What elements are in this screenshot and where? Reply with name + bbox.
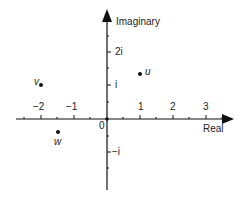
- y-tick-label: −i: [112, 147, 120, 157]
- point-w: [56, 130, 60, 134]
- point-v-label: v: [34, 77, 39, 87]
- point-w-label: w: [54, 137, 61, 147]
- x-axis-label: Real: [203, 124, 224, 134]
- y-axis-label: Imaginary: [116, 17, 160, 27]
- x-tick-label: −2: [33, 102, 44, 112]
- point-v: [39, 83, 43, 87]
- x-tick-label: 3: [203, 102, 209, 112]
- point-u-label: u: [145, 67, 151, 77]
- imaginary-axis-arrow-icon: [102, 9, 112, 22]
- origin-label: 0: [99, 121, 105, 131]
- x-tick-label: 1: [138, 102, 144, 112]
- x-tick-label: −1: [66, 102, 77, 112]
- complex-plane-graphic: [0, 0, 246, 197]
- real-axis-arrow-icon: [222, 114, 234, 124]
- x-tick-label: 2: [170, 102, 176, 112]
- point-u: [138, 72, 142, 76]
- y-tick-label: i: [115, 80, 117, 90]
- y-tick-label: 2i: [115, 47, 123, 57]
